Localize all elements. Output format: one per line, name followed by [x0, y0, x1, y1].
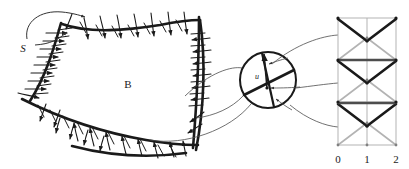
lattice-vertex — [366, 144, 369, 147]
lattice-vertex — [365, 124, 369, 128]
lattice-vertex — [365, 39, 368, 42]
lattice-vertex — [336, 16, 339, 19]
lattice-vertex — [394, 16, 397, 19]
surface-label-S: S — [20, 42, 26, 54]
lattice-vertex — [366, 79, 369, 82]
disc-center-point — [265, 86, 268, 89]
lattice-vertex — [365, 81, 368, 84]
lattice-vertex — [336, 58, 339, 61]
region-label-B: B — [124, 78, 131, 90]
lattice-vertex — [336, 100, 339, 103]
axis-tick-0: 0 — [335, 153, 341, 165]
lattice-vertex — [337, 144, 340, 147]
axis-tick-1: 1 — [364, 153, 370, 165]
lattice-vertex — [366, 37, 369, 40]
lattice-vertex — [395, 144, 398, 147]
lattice-vertex — [394, 58, 397, 61]
vector-label-u: u — [255, 72, 259, 81]
figure-canvas: S B u — [0, 0, 409, 169]
figure-root: S B u — [0, 0, 409, 169]
lattice-vertex — [366, 122, 369, 125]
axis-tick-2: 2 — [393, 153, 399, 165]
lattice-vertex — [394, 100, 397, 103]
